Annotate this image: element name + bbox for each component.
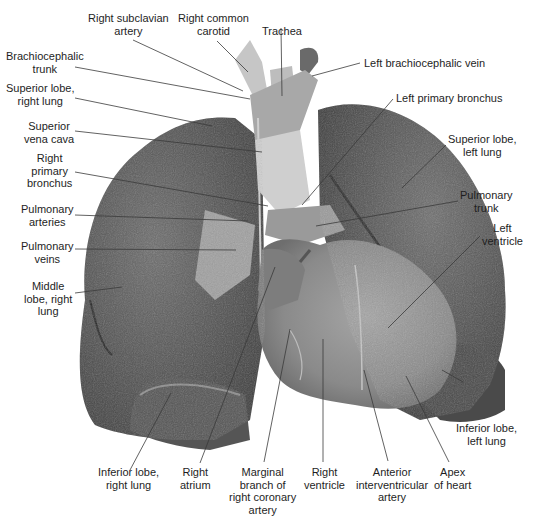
- label-right-atrium: Right atrium: [180, 466, 211, 491]
- label-trachea: Trachea: [262, 25, 302, 38]
- label-left-primary-bronchus: Left primary bronchus: [396, 92, 502, 105]
- label-superior-vena-cava: Superior vena cava: [24, 120, 74, 145]
- label-superior-lobe-right-lung: Superior lobe, right lung: [6, 82, 75, 107]
- label-middle-lobe-right-lung: Middle lobe, right lung: [24, 280, 72, 318]
- leader-right-subclavian: [133, 40, 243, 91]
- label-left-brachiocephalic-vein: Left brachiocephalic vein: [364, 57, 485, 70]
- label-pulmonary-veins: Pulmonary veins: [21, 240, 74, 265]
- anatomy-figure: Right subclavian artery Right common car…: [0, 0, 536, 519]
- leader-left-brachiocephalic-vein: [312, 63, 360, 76]
- leader-superior-lobe-right: [75, 98, 212, 126]
- label-inferior-lobe-right-lung: Inferior lobe, right lung: [98, 466, 159, 491]
- label-right-ventricle: Right ventricle: [304, 466, 345, 491]
- label-superior-lobe-left-lung: Superior lobe, left lung: [448, 133, 517, 158]
- leader-brachiocephalic-trunk: [75, 67, 250, 99]
- label-inferior-lobe-left-lung: Inferior lobe, left lung: [456, 422, 517, 447]
- label-left-ventricle: Left ventricle: [482, 222, 523, 247]
- label-anterior-interventricular-artery: Anterior interventricular artery: [356, 466, 428, 504]
- label-right-common-carotid: Right common carotid: [178, 12, 249, 37]
- label-brachiocephalic-trunk: Brachiocephalic trunk: [6, 50, 84, 75]
- label-pulmonary-trunk: Pulmonary trunk: [460, 189, 513, 214]
- label-apex-of-heart: Apex of heart: [434, 466, 471, 491]
- label-right-primary-bronchus: Right primary bronchus: [27, 152, 72, 190]
- label-marginal-branch-right-coronary-artery: Marginal branch of right coronary artery: [229, 466, 296, 516]
- label-right-subclavian-artery: Right subclavian artery: [88, 12, 169, 37]
- label-pulmonary-arteries: Pulmonary arteries: [21, 203, 74, 228]
